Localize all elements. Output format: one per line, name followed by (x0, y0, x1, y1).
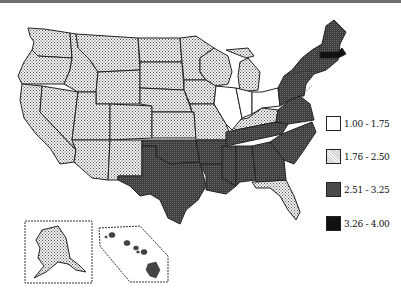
legend-item-4: 3.26 - 4.00 (326, 216, 390, 231)
state-northeast (278, 20, 346, 106)
alaska-inset (25, 221, 92, 283)
legend-label: 1.76 - 2.50 (344, 152, 390, 162)
hawaii-inset (99, 226, 168, 282)
state-colorado (110, 104, 152, 140)
state-kansas (152, 112, 196, 138)
state-new-mexico (108, 140, 142, 180)
state-wyoming (96, 70, 140, 104)
legend-item-1: 1.00 - 1.75 (326, 116, 390, 131)
legend-swatch-dark (326, 182, 341, 197)
legend-swatch-white (326, 116, 341, 131)
state-south-dakota (140, 62, 184, 90)
state-florida (252, 180, 300, 220)
state-arizona (72, 140, 110, 180)
state-north-dakota (138, 38, 182, 62)
legend-item-2: 1.76 - 2.50 (326, 149, 390, 164)
legend-label: 2.51 - 3.25 (344, 185, 390, 195)
legend-label: 3.26 - 4.00 (344, 219, 390, 229)
legend-item-3: 2.51 - 3.25 (326, 182, 390, 197)
legend-swatch-light (326, 149, 341, 164)
legend-label: 1.00 - 1.75 (344, 119, 390, 129)
legend-swatch-black (326, 216, 341, 231)
